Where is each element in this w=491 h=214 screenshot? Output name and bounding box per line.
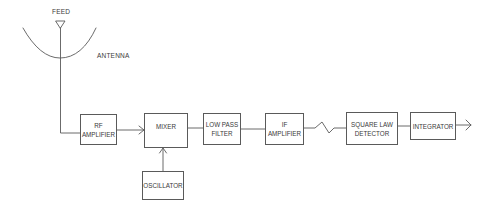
mixer-block: MIXER [144, 113, 188, 148]
integrator-label: INTEGRATOR [413, 122, 454, 131]
receiver-block-diagram: FEED ANTENNA RF AMPLIFIER MIXER LOW PASS… [0, 0, 491, 214]
low-pass-filter-block: LOW PASS FILTER [203, 113, 241, 145]
mixer-label: MIXER [156, 122, 176, 131]
low-pass-filter-label-1: LOW PASS [206, 120, 238, 129]
rf-amplifier-label-1: RF [82, 121, 115, 130]
diagram-wires [0, 0, 491, 214]
oscillator-label: OSCILLATOR [143, 181, 182, 190]
antenna-label: ANTENNA [97, 52, 129, 60]
rf-amplifier-label-2: AMPLIFIER [82, 130, 115, 139]
square-law-detector-label-1: SQUARE LAW [351, 120, 393, 129]
if-amplifier-block: IF AMPLIFIER [265, 113, 304, 145]
square-law-detector-label-2: DETECTOR [351, 129, 393, 138]
low-pass-filter-label-2: FILTER [206, 129, 238, 138]
oscillator-block: OSCILLATOR [142, 171, 184, 200]
feed-triangle-icon [56, 21, 65, 28]
antenna-dish-icon [23, 28, 96, 58]
if-to-detector-zigzag [304, 122, 346, 133]
if-amplifier-label-1: IF [268, 120, 301, 129]
square-law-detector-block: SQUARE LAW DETECTOR [346, 112, 398, 145]
integrator-block: INTEGRATOR [410, 112, 456, 140]
rf-amplifier-block: RF AMPLIFIER [80, 114, 117, 145]
feed-label: FEED [52, 8, 70, 16]
if-amplifier-label-2: AMPLIFIER [268, 129, 301, 138]
feed-line [61, 28, 81, 133]
